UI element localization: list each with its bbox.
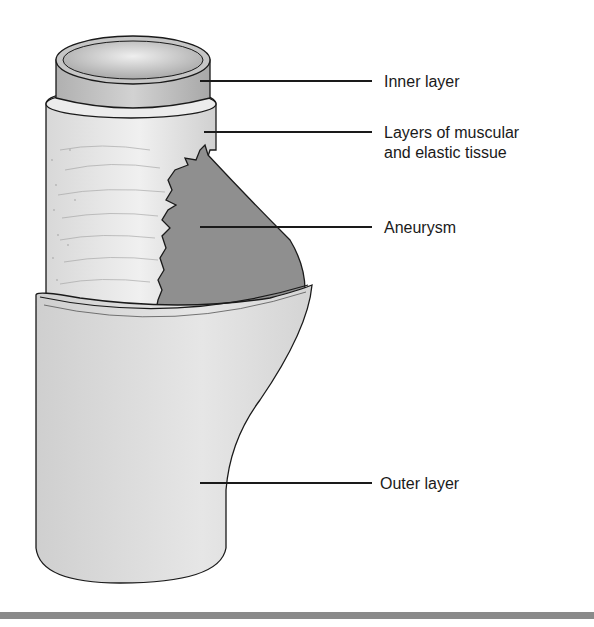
bottom-divider-bar (0, 612, 594, 619)
label-outer-layer: Outer layer (380, 474, 459, 493)
label-muscular-elastic-line2: and elastic tissue (384, 143, 507, 162)
inner-layer-shape (56, 36, 210, 108)
label-muscular-elastic-line1: Layers of muscular (384, 123, 519, 142)
aneurysm-shape (156, 145, 305, 312)
label-inner-layer: Inner layer (384, 72, 460, 91)
label-aneurysm: Aneurysm (384, 218, 456, 237)
outer-layer-shape (36, 285, 312, 583)
aneurysm-diagram (0, 0, 594, 627)
